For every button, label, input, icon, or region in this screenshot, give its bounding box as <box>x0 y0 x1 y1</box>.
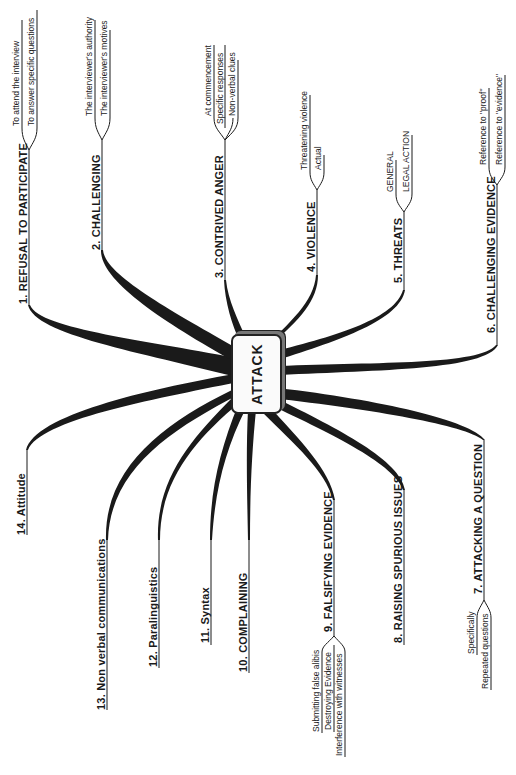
branch-3-label: 3. CONTRIVED ANGER <box>214 155 225 278</box>
branch-9-child-2: Destroying Evidence <box>324 652 333 730</box>
branch-6-child-1: Reference to "proof" <box>479 89 488 165</box>
branch-12-connector <box>158 398 240 540</box>
branch-5-child-1: GENERAL <box>386 151 395 192</box>
branch-6-label: 6. CHALLENGING EVIDENCE <box>486 176 497 333</box>
branch-1-child-1: To attend the interview <box>12 41 21 126</box>
branch-7-child-1: Specifically <box>467 611 476 654</box>
branch-3-child-1: At commencement <box>204 45 213 116</box>
center-node-attack: ATTACK <box>231 334 282 414</box>
branch-10-connector <box>247 410 256 540</box>
branch-6-child-2: Reference to "evidence" <box>495 74 504 165</box>
branch-9-connector <box>262 405 335 500</box>
center-label: ATTACK <box>249 343 265 404</box>
branch-1-label: 1. REFUSAL TO PARTICIPATE <box>18 143 29 304</box>
branch-3-child-2: Specific responses <box>216 53 225 124</box>
branch-2-label: 2. CHALLENGING <box>91 154 102 250</box>
branch-3-connector <box>224 280 246 342</box>
branch-7-label: 7. ATTACKING A QUESTION <box>473 444 484 594</box>
branch-4-child-2: Actual <box>314 146 323 170</box>
branch-2-child-2: The interviewer's motives <box>100 20 109 116</box>
branch-1-child-2: To answer specific questions <box>27 18 36 126</box>
branch-2-child-1: The interviewer's authority <box>85 17 94 116</box>
branch-7-child-2: Repeated questions <box>481 613 490 689</box>
branch-9-label: 9. FALSIFYING EVIDENCE <box>323 491 334 632</box>
branch-3-child-3: Non-verbal clues <box>228 52 237 116</box>
branch-13-label: 13. Non verbal communications <box>96 539 107 710</box>
branch-9-child-1: Submitting false alibis <box>312 650 321 732</box>
branch-11-connector <box>210 405 246 540</box>
branch-5-label: 5. THREATS <box>393 218 404 283</box>
branch-9-child-3: Interference with witnesses <box>335 653 344 756</box>
branch-6-connector <box>278 345 498 375</box>
branch-8-label: 8. RAISING SPURIOUS ISSUES <box>393 476 404 643</box>
branch-14-label: 14. Attitude <box>16 473 27 535</box>
branch-4-label: 4. VIOLENCE <box>306 201 317 272</box>
branch-12-label: 12. Paralinguistics <box>148 567 159 667</box>
branch-11-label: 11. Syntax <box>200 587 211 643</box>
branch-5-child-2: LEGAL ACTION <box>402 131 411 192</box>
branch-10-label: 10. COMPLAINING <box>238 572 249 672</box>
branch-4-child-1: Threatening violence <box>300 91 309 170</box>
